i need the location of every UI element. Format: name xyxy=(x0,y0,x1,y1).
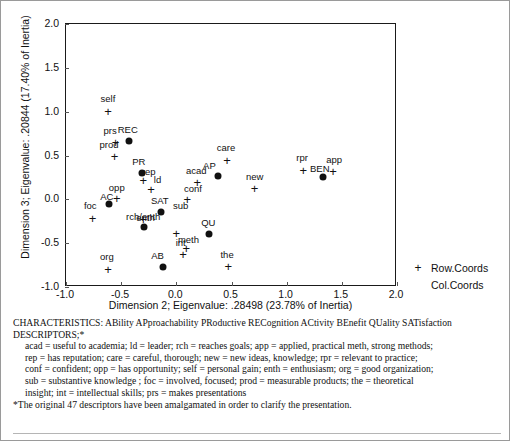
caption-line-1: acad = useful to academia; ld = leader; … xyxy=(13,340,501,352)
data-point-app: + xyxy=(329,165,337,178)
legend-item-row-coords: + Row.Coords xyxy=(409,259,488,276)
y-tick-label: -0.5 xyxy=(29,236,59,248)
x-tick-label: 1.5 xyxy=(334,288,349,300)
point-label-self: self xyxy=(101,94,116,104)
y-tick-label: -1.0 xyxy=(29,280,59,292)
x-tick-label: 2.0 xyxy=(389,288,404,300)
data-point-BEN xyxy=(320,173,327,180)
point-label-AP: AP xyxy=(203,161,216,171)
point-label-AC: AC xyxy=(100,192,113,202)
bottom-divider xyxy=(13,433,501,434)
point-label-care: care xyxy=(217,143,235,153)
caption-descriptors-heading: DESCRIPTORS;* xyxy=(13,329,501,341)
y-tick-label: 2.0 xyxy=(29,17,59,29)
legend-label-col-coords: Col.Coords xyxy=(431,279,484,291)
y-tick xyxy=(65,24,69,25)
data-point-AP xyxy=(215,172,222,179)
data-point-int: + xyxy=(179,247,187,260)
y-tick-label: 1.0 xyxy=(29,105,59,117)
data-point-AB xyxy=(160,263,167,270)
plus-marker-icon: + xyxy=(409,262,427,274)
x-tick xyxy=(397,282,398,286)
y-axis-title: Dimension 3; Eigenvalue: .20844 (17.40% … xyxy=(19,5,31,269)
point-label-rpr: rpr xyxy=(296,153,308,163)
x-tick-label: 0.0 xyxy=(168,288,183,300)
legend-item-col-coords: Col.Coords xyxy=(409,276,488,293)
chart-legend: + Row.Coords Col.Coords xyxy=(409,259,488,293)
legend-label-row-coords: Row.Coords xyxy=(431,262,488,274)
caption-characteristics: CHARACTERISTICS: ABility APproachability… xyxy=(13,317,501,329)
data-point-org: + xyxy=(104,262,112,275)
y-tick xyxy=(65,243,69,244)
y-tick xyxy=(65,156,69,157)
y-tick-label: 0.5 xyxy=(29,149,59,161)
data-point-the: + xyxy=(224,259,232,272)
x-tick xyxy=(342,282,343,286)
point-label-AB: AB xyxy=(151,251,164,261)
figure-caption: CHARACTERISTICS: ABility APproachability… xyxy=(13,317,501,411)
data-point-new: + xyxy=(251,181,259,194)
x-axis-title: Dimension 2; Eigenvalue: .28498 (23.78% … xyxy=(65,299,396,311)
caption-line-2: rep = has reputation; care = careful, th… xyxy=(13,352,501,364)
caption-footnote: *The original 47 descriptors have been a… xyxy=(13,398,501,411)
x-tick xyxy=(287,282,288,286)
data-point-PR xyxy=(139,170,146,177)
point-label-PR: PR xyxy=(132,157,145,167)
plot-area-wrapper: Dimension 3; Eigenvalue: .20844 (17.40% … xyxy=(1,1,510,317)
point-label-ld: ld xyxy=(154,175,161,185)
point-label-REC: REC xyxy=(118,125,138,135)
x-tick-label: 1.0 xyxy=(278,288,293,300)
point-label-enth: enth xyxy=(136,213,155,223)
figure-panel: Dimension 3; Eigenvalue: .20844 (17.40% … xyxy=(0,0,510,441)
point-label-new: new xyxy=(246,172,263,182)
x-tick-label: 0.5 xyxy=(223,288,238,300)
point-label-BEN: BEN xyxy=(310,164,330,174)
data-point-foc: + xyxy=(89,211,97,224)
caption-line-5: insight; int = intellectual skills; prs … xyxy=(13,387,501,399)
data-point-REC xyxy=(125,137,132,144)
data-point-care: + xyxy=(223,153,231,166)
caption-line-3: conf = confident; opp = has opportunity;… xyxy=(13,363,501,375)
data-point-self: + xyxy=(104,104,112,117)
data-point-enth xyxy=(141,223,148,230)
point-label-conf: conf xyxy=(184,184,202,194)
data-point-opp: + xyxy=(113,191,121,204)
data-point-prod: + xyxy=(111,150,119,163)
point-label-QU: QU xyxy=(201,218,215,228)
data-point-QU xyxy=(206,231,213,238)
scatter-plot: +self+prs+prod+care+rpr+app+rep+ld+acad+… xyxy=(65,23,396,286)
x-tick-label: -0.5 xyxy=(111,288,129,300)
y-tick-label: 0.0 xyxy=(29,192,59,204)
y-tick xyxy=(65,68,69,69)
x-tick xyxy=(232,282,233,286)
point-label-int: int xyxy=(176,238,186,248)
point-label-prod: prod xyxy=(100,140,119,150)
x-tick xyxy=(176,282,177,286)
caption-line-4: sub = substantive knowledge ; foc = invo… xyxy=(13,375,501,387)
y-tick xyxy=(65,112,69,113)
data-point-SAT xyxy=(157,208,164,215)
point-label-sub: sub xyxy=(173,201,188,211)
point-label-foc: foc xyxy=(84,201,97,211)
point-label-the: the xyxy=(220,250,233,260)
x-tick xyxy=(121,282,122,286)
y-tick xyxy=(65,199,69,200)
point-label-prs: prs xyxy=(104,126,117,136)
point-label-SAT: SAT xyxy=(151,196,169,206)
point-label-org: org xyxy=(100,252,114,262)
x-tick xyxy=(66,282,67,286)
y-tick-label: 1.5 xyxy=(29,61,59,73)
data-point-rpr: + xyxy=(299,163,307,176)
